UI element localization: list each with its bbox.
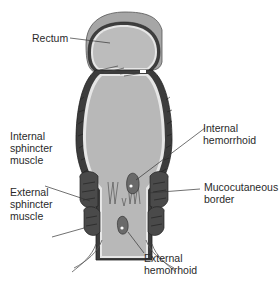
- label-mucocutaneous-border: Mucocutaneous border: [204, 181, 278, 205]
- internal-hemorrhoid: [127, 173, 140, 194]
- label-external-sphincter-muscle: External sphincter muscle: [10, 186, 53, 222]
- label-external-hemorrhoid: External hemorrhoid: [144, 252, 197, 276]
- label-internal-hemorrhoid: Internal hemorrhoid: [203, 122, 256, 146]
- label-internal-sphincter-muscle: Internal sphincter muscle: [10, 130, 53, 166]
- label-rectum: Rectum: [32, 32, 68, 44]
- external-hemorrhoid: [117, 216, 128, 234]
- rectum-lumen: [93, 27, 155, 68]
